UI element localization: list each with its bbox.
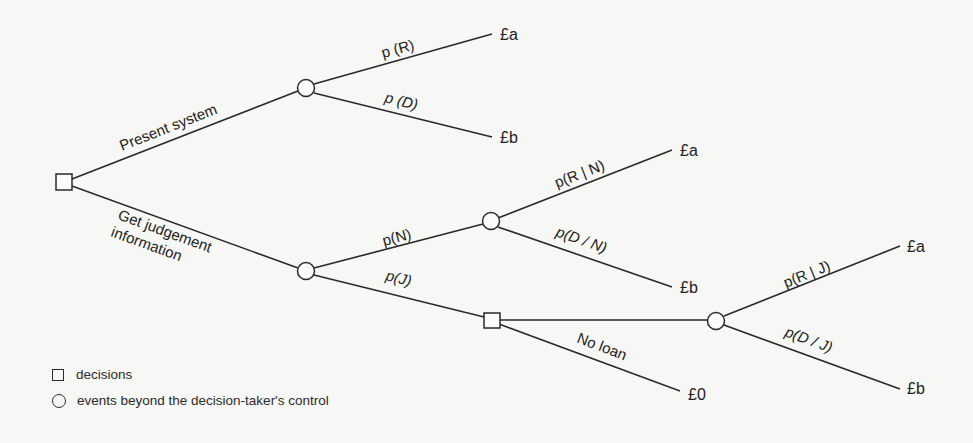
chance-node-N: [483, 213, 500, 230]
outcome-n-repay: £a: [680, 142, 698, 159]
outcome-j-repay: £a: [907, 238, 925, 255]
outcome-n-default: £b: [680, 279, 698, 296]
square-icon: [52, 369, 64, 381]
decision-node-J: [484, 313, 500, 328]
legend-events: events beyond the decision-taker's contr…: [52, 393, 329, 408]
prob-label-pJ: p(J): [383, 266, 413, 289]
prob-label-pRJ: p(R | J): [781, 257, 833, 291]
branch-label-no-loan: No loan: [575, 329, 629, 363]
legend-decisions: decisions: [52, 367, 132, 382]
prob-label-pD: p (D): [382, 88, 419, 113]
decision-tree-diagram: Present system Get judgement information…: [0, 0, 973, 443]
chance-node-present-system: [298, 80, 315, 97]
legend-events-label: events beyond the decision-taker's contr…: [77, 393, 329, 408]
prob-label-pDJ: p(D / J): [782, 323, 835, 356]
legend-decisions-label: decisions: [76, 367, 132, 382]
chance-node-judgement: [298, 263, 315, 280]
chance-node-J-loan: [708, 313, 725, 330]
outcome-no-loan: £0: [688, 386, 706, 403]
outcome-ps-default: £b: [500, 129, 518, 146]
outcome-j-default: £b: [907, 380, 925, 397]
circle-icon: [52, 394, 66, 408]
outcome-ps-repay: £a: [500, 26, 518, 43]
edge-n-repay: [498, 150, 672, 218]
prob-label-pN: p(N): [380, 225, 413, 249]
edge-j-repay: [724, 246, 900, 316]
edge-get-information: [72, 186, 298, 268]
edge-present-system: [72, 91, 298, 179]
prob-label-pDN: p(D / N): [553, 222, 609, 255]
decision-node-root: [56, 174, 72, 190]
